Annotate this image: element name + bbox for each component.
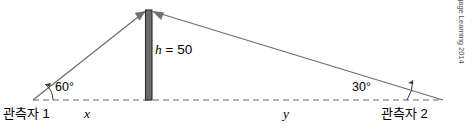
height-variable: h — [155, 42, 162, 57]
distance-y-label: y — [283, 107, 289, 121]
observer-1-label: 관측자 1 — [3, 107, 50, 120]
geometry-figure: 관측자 1 관측자 2 x y h = 50 60° 30° © Cengage… — [0, 0, 475, 131]
observer-2-label: 관측자 2 — [381, 107, 428, 120]
copyright-notice: © Cengage Learning 2014 — [457, 0, 465, 70]
height-equation: = 50 — [162, 42, 192, 57]
distance-x-label: x — [84, 107, 90, 121]
pole-height-label: h = 50 — [155, 43, 192, 57]
right-line-of-sight — [153, 12, 443, 101]
vertical-pole — [146, 10, 153, 100]
angle-30-label: 30° — [352, 81, 371, 94]
angle-60-label: 60° — [55, 81, 74, 94]
